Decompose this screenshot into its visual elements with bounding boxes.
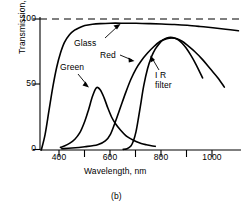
y-axis-title: Transmission, % [18,0,27,54]
curve-ir-filter [123,37,202,149]
curve-label-red: Red [100,51,116,60]
y-tick-label-50: 50 [18,79,36,88]
axis-lines [40,17,241,150]
ir-filter-line-2: filter [155,80,172,90]
arrowhead-green [83,82,90,88]
x-axis-ticks [59,150,212,157]
chart-plot-area [0,0,247,212]
curve-label-green: Green [60,63,84,72]
arrowhead-red [129,58,135,63]
annotation-leaders [78,24,159,88]
curve-label-glass: Glass [74,39,96,48]
x-tick-label-600: 600 [96,153,124,162]
x-tick-label-800: 800 [147,153,175,162]
x-axis-title: Wavelength, nm [84,167,147,176]
x-tick-label-1000: 1000 [197,153,227,162]
x-tick-label-400: 400 [45,153,73,162]
transmission-chart-figure: Transmission, % 0 50 100 400 600 800 100… [0,0,247,212]
y-tick-label-0: 0 [22,144,36,153]
figure-caption: (b) [111,192,122,201]
curve-glass [41,23,238,150]
ir-filter-line-1: I R [155,70,166,80]
y-tick-label-100: 100 [13,14,36,23]
curve-label-ir-filter: I Rfilter [155,71,172,90]
